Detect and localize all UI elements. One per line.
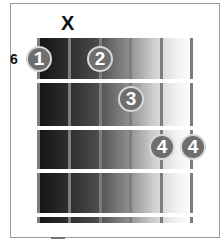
frame-tick bbox=[51, 237, 65, 239]
fret-line-2 bbox=[37, 126, 193, 130]
finger-dot-3: 3 bbox=[118, 86, 144, 112]
finger-dot-4b: 4 bbox=[180, 134, 206, 160]
muted-string-marker: X bbox=[61, 12, 74, 35]
finger-dot-4a: 4 bbox=[149, 134, 175, 160]
fret-line-4 bbox=[37, 213, 193, 217]
fret-line-3 bbox=[37, 169, 193, 173]
starting-fret-number: 6 bbox=[10, 51, 18, 67]
fretboard bbox=[37, 38, 193, 223]
string-2 bbox=[68, 38, 71, 223]
string-4 bbox=[129, 38, 132, 223]
finger-dot-1: 1 bbox=[26, 46, 52, 72]
string-6 bbox=[190, 38, 193, 223]
finger-dot-2: 2 bbox=[87, 46, 113, 72]
fret-line-1 bbox=[37, 79, 193, 83]
string-5 bbox=[160, 38, 163, 223]
